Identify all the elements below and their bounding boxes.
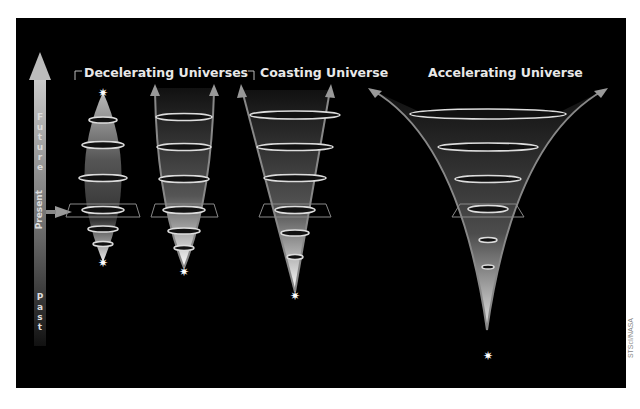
label-past: Past bbox=[35, 292, 45, 332]
title-accelerating: Accelerating Universe bbox=[428, 65, 583, 80]
coasting-universe: ✷ bbox=[237, 84, 340, 303]
decelerating-universe-closed: ✷ ✷ bbox=[66, 86, 140, 270]
image-credit: STScI/NASA bbox=[627, 318, 634, 358]
label-present: Present bbox=[34, 190, 44, 229]
big-bang-star-icon: ✷ bbox=[290, 289, 300, 303]
universe-expansion-diagram: ✷ ✷ ✷ ✷ bbox=[0, 0, 640, 409]
title-coasting: Coasting Universe bbox=[260, 65, 388, 80]
big-bang-star-icon: ✷ bbox=[179, 265, 189, 279]
title-decelerating: Decelerating Universes bbox=[84, 65, 248, 80]
decelerating-universe-open: ✷ bbox=[150, 84, 219, 279]
big-bang-star-icon: ✷ bbox=[483, 349, 493, 363]
label-future: Future bbox=[35, 112, 45, 172]
accelerating-universe: ✷ bbox=[368, 88, 608, 363]
big-bang-star-icon: ✷ bbox=[98, 86, 108, 100]
big-crunch-star-icon: ✷ bbox=[98, 256, 108, 270]
